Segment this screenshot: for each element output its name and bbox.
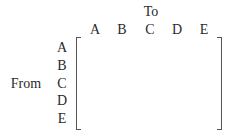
left-bracket (76, 37, 81, 130)
column-label: B (117, 23, 126, 37)
row-label: A (57, 41, 67, 55)
right-bracket (217, 37, 222, 130)
column-axis-label: To (144, 5, 159, 19)
column-label: D (172, 23, 182, 37)
row-label: C (57, 77, 66, 91)
column-label: A (90, 23, 100, 37)
row-axis-label: From (11, 77, 41, 91)
row-label: D (57, 94, 67, 108)
column-label: E (200, 23, 209, 37)
row-label: E (58, 112, 67, 126)
row-label: B (57, 59, 66, 73)
column-label: C (145, 23, 154, 37)
